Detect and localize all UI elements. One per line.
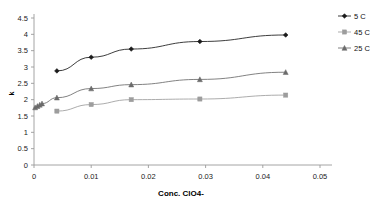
legend-label-2: 25 C	[354, 44, 370, 53]
legend-marker-0	[342, 14, 347, 19]
legend-label-1: 45 C	[354, 28, 370, 37]
x-tick-label: 0.01	[84, 172, 99, 181]
x-tick-label: 0.05	[313, 172, 328, 181]
y-axis-title: k	[8, 91, 15, 95]
data-point-5-c-2	[129, 47, 134, 52]
legend-marker-1	[342, 30, 346, 34]
data-point-45-c-1	[89, 102, 93, 106]
data-point-5-c-3	[198, 39, 203, 44]
y-tick-label: 4.5	[18, 14, 28, 23]
legend-label-0: 5 C	[354, 12, 366, 21]
y-tick-label: 3.5	[18, 46, 28, 55]
data-point-45-c-3	[198, 97, 202, 101]
y-tick-label: 2	[24, 95, 28, 104]
series-line-25-c	[35, 72, 286, 107]
x-tick-label: 0.04	[255, 172, 270, 181]
line-chart: 00.511.522.533.544.500.010.020.030.040.0…	[0, 0, 390, 216]
data-point-45-c-2	[129, 98, 133, 102]
y-tick-label: 2.5	[18, 79, 28, 88]
data-point-45-c-0	[55, 109, 59, 113]
y-tick-label: 0.5	[18, 144, 28, 153]
y-tick-label: 0	[24, 161, 28, 170]
data-point-45-c-4	[284, 93, 288, 97]
y-tick-label: 3	[24, 63, 28, 72]
series-line-5-c	[57, 35, 286, 71]
data-point-5-c-1	[89, 55, 94, 60]
x-tick-label: 0	[32, 172, 36, 181]
y-tick-label: 4	[24, 30, 28, 39]
y-tick-label: 1	[24, 128, 28, 137]
data-point-5-c-0	[55, 69, 60, 74]
x-tick-label: 0.03	[198, 172, 213, 181]
x-axis-title: Conc. ClO4-	[158, 189, 204, 198]
x-tick-label: 0.02	[141, 172, 156, 181]
y-tick-label: 1.5	[18, 112, 28, 121]
data-point-5-c-4	[283, 33, 288, 38]
